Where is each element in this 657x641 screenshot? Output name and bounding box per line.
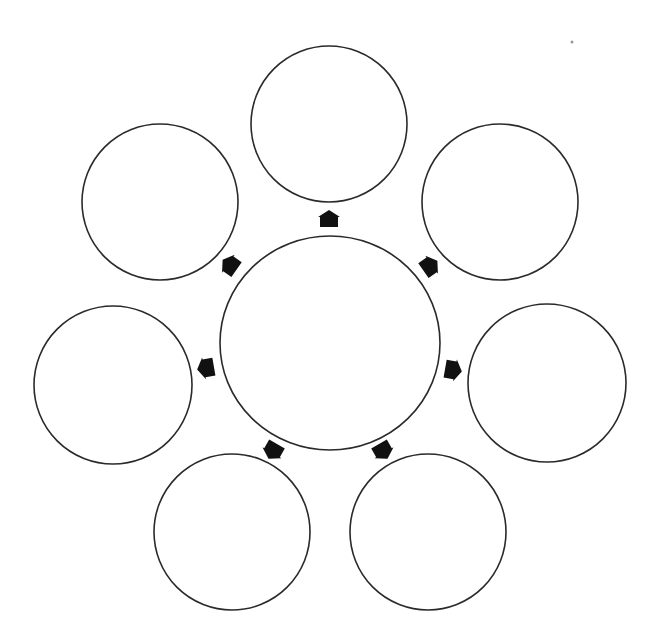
- circle-top-right: [422, 124, 578, 280]
- hub-spoke-diagram: [0, 0, 657, 641]
- circle-bottom-right: [350, 454, 506, 610]
- circle-left: [34, 306, 192, 464]
- arrow-up-left-icon: [216, 251, 243, 279]
- center-circle: [220, 236, 440, 450]
- arrow-up-icon: [318, 210, 340, 227]
- circle-top: [251, 46, 407, 202]
- circle-top-left: [82, 124, 238, 280]
- circle-bottom-left: [154, 454, 310, 610]
- arrow-down-right-icon: [369, 439, 397, 465]
- arrow-left-icon: [195, 356, 216, 381]
- scan-speck: [571, 41, 574, 44]
- arrow-up-right-icon: [417, 252, 444, 280]
- arrow-right-icon: [443, 358, 464, 383]
- circle-right: [468, 304, 626, 462]
